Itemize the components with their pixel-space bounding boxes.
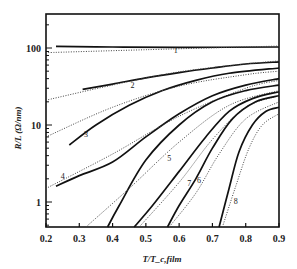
x-tick-label: 0.7 [206,233,219,244]
y-axis-label: R/L (Ω/nm) [13,106,23,150]
fit-curve [139,96,279,227]
curve-number-label: 2 [131,81,135,90]
data-curve [56,46,279,47]
data-curves [46,46,279,227]
data-curve [108,85,279,227]
x-tick-label: 0.9 [273,233,286,244]
fit-curve [46,80,279,188]
curve-labels: 12345768 [61,46,238,206]
curve-number-label: 1 [174,46,178,55]
y-tick-label: 100 [26,43,41,54]
fit-curve [46,61,279,100]
curve-number-label: 6 [197,176,201,185]
x-tick-label: 0.6 [173,233,186,244]
data-curve [167,96,279,227]
y-tick-label: 10 [31,120,41,131]
x-tick-label: 0.5 [140,233,153,244]
x-axis-label: T/T_c,film [142,254,181,264]
y-tick-label: 1 [36,197,41,208]
x-tick-label: 0.8 [239,233,252,244]
x-tick-label: 0.3 [73,233,86,244]
curve-number-label: 5 [167,154,171,163]
resistance-vs-temperature-chart: 12345768 0.20.30.40.50.60.70.80.9110100 … [0,0,297,269]
curve-number-label: 4 [61,172,65,181]
x-tick-label: 0.4 [106,233,119,244]
curve-number-label: 3 [84,130,88,139]
x-tick-label: 0.2 [40,233,53,244]
curve-number-label: 8 [234,197,238,206]
data-curve [56,79,279,187]
curve-number-label: 7 [187,179,191,188]
fit-curve [46,71,279,137]
fit-curve [222,114,279,227]
